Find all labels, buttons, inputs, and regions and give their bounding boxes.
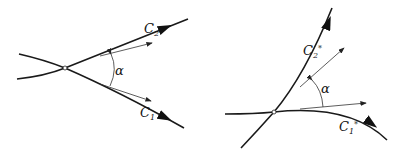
curve-c2-star [241, 8, 332, 148]
right-panel: C2* C1* α [225, 8, 387, 148]
curve-c2 [17, 19, 188, 79]
tangent-vector-c2 [100, 43, 152, 56]
curve-c1-star-arrow [368, 121, 372, 124]
label-alpha-star: α [321, 81, 330, 96]
intersection-point-star [272, 110, 276, 114]
label-c2: C2 [144, 21, 159, 38]
curve-c1 [19, 54, 184, 128]
curve-c1-star [225, 111, 387, 140]
curve-c2-star-arrow [327, 22, 329, 26]
label-c1-star: C1* [339, 119, 358, 136]
intersection-point [63, 66, 67, 70]
curve-c1-arrow [160, 115, 166, 118]
conformal-angle-diagram: C2 C1 α C2* C1* α [0, 0, 399, 153]
label-alpha: α [115, 63, 124, 78]
left-panel: C2 C1 α [17, 19, 188, 128]
tangent-vector-c1-star [300, 103, 366, 109]
angle-arc [110, 54, 114, 86]
tangent-vector-c1 [100, 84, 151, 101]
label-c2-star: C2* [303, 43, 322, 60]
label-c1: C1 [140, 105, 155, 122]
